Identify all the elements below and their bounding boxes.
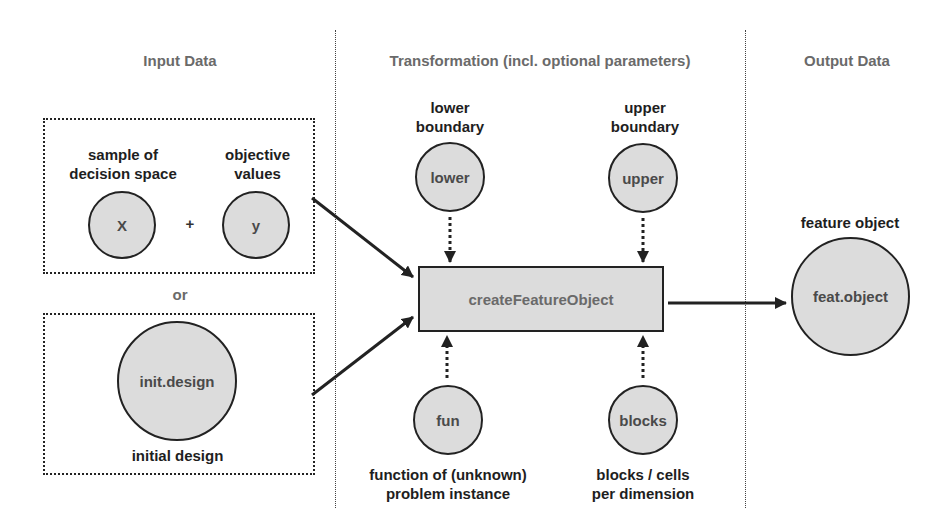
arrows-layer — [0, 0, 948, 523]
arrow-xy-to-box — [312, 198, 413, 277]
arrow-initdesign-to-box — [312, 317, 413, 395]
